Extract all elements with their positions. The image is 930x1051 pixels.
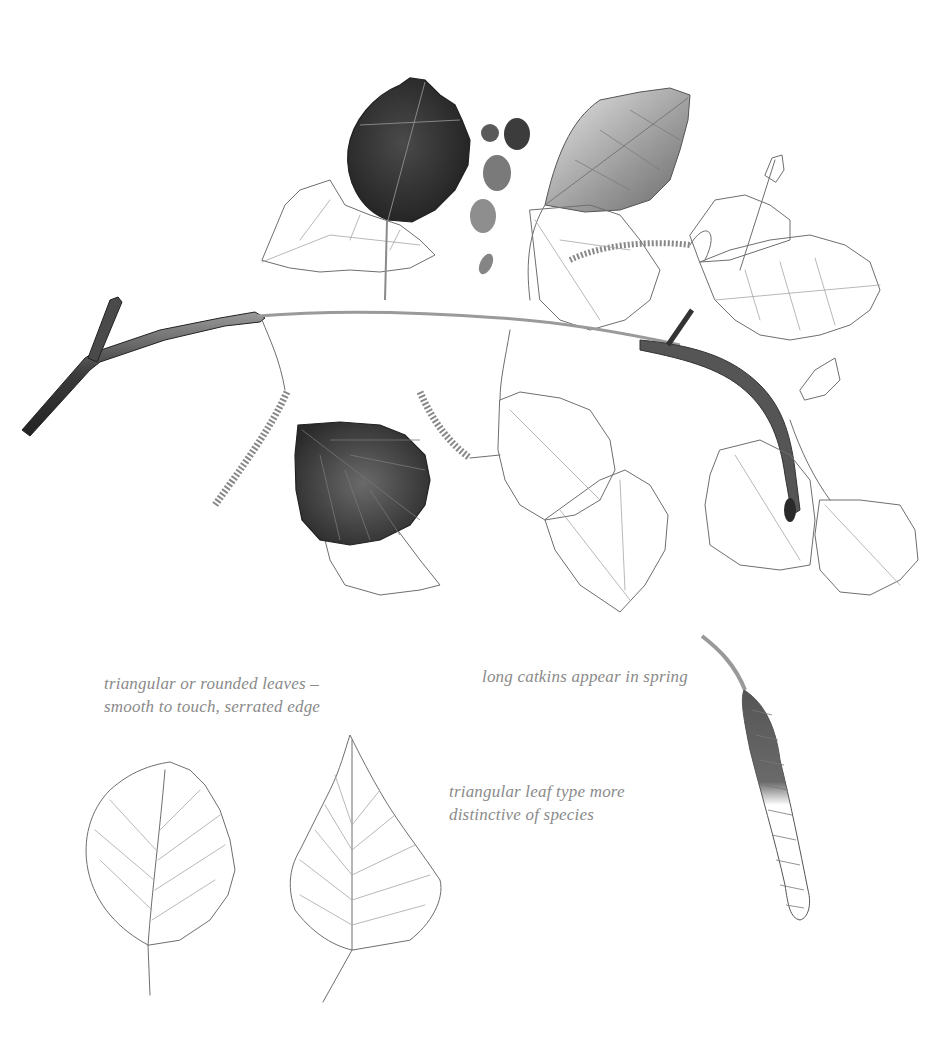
color-swatches [470,118,530,277]
caption-leaves-line1: triangular or rounded leaves – [104,672,320,695]
caption-triangular: triangular leaf type more distinctive of… [449,780,625,826]
leaf-shaded-top-right [528,88,690,300]
caption-catkins: long catkins appear in spring [482,665,688,688]
leaf-dark-lower [295,422,440,595]
leaf-dark-top [348,78,470,300]
birch-illustration [0,0,930,1051]
catkin-hanging-left [215,320,287,505]
leaf-outline-center [530,205,660,330]
leaf-outline-right-cluster [690,155,880,340]
leaf-rounded-detail [86,762,235,995]
caption-leaves: triangular or rounded leaves – smooth to… [104,672,320,718]
caption-triangular-line1: triangular leaf type more [449,780,625,803]
caption-catkins-line1: long catkins appear in spring [482,665,688,688]
catkin-hanging-center [420,392,500,458]
leaf-triangular-detail [290,735,441,1002]
leaf-outline-hanging-right [705,358,918,595]
caption-triangular-line2: distinctive of species [449,803,625,826]
leaf-outline-hanging-center [498,330,668,612]
catkin-detached [702,636,810,920]
caption-leaves-line2: smooth to touch, serrated edge [104,695,320,718]
